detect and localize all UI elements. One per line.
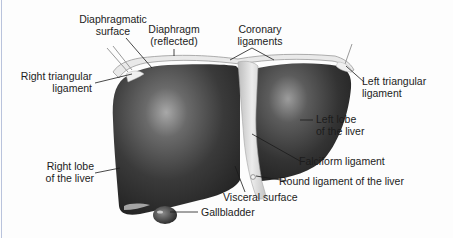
label-right-lobe: Right lobe of the liver [14,160,94,184]
label-round-ligament: Round ligament of the liver [279,175,404,187]
label-left-triangular-ligament: Left triangular ligament [362,75,448,99]
label-falciform-ligament: Falciform ligament [299,155,385,167]
label-coronary-ligaments: Coronary ligaments [229,23,291,47]
gallbladder-shape [153,206,177,224]
label-diaphragm-reflected: Diaphragm (reflected) [143,23,205,47]
label-gallbladder: Gallbladder [201,206,255,218]
gallbladder-highlight [157,210,163,213]
label-left-lobe: Left lobe of the liver [316,113,396,137]
label-visceral-surface: Visceral surface [223,191,298,203]
round-ligament-tip [251,175,256,180]
left-cord [345,44,352,64]
right-lobe-shape [113,64,240,214]
label-right-triangular-ligament: Right triangular ligament [12,70,92,94]
